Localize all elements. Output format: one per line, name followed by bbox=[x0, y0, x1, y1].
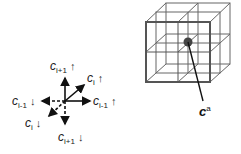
label-diag-down: ci↓ bbox=[25, 117, 41, 132]
label-ca: ca bbox=[199, 104, 211, 119]
label-diag-up: ci↑ bbox=[87, 72, 103, 87]
label-left: ci-1↓ bbox=[12, 95, 35, 110]
label-up: ci+1↑ bbox=[50, 60, 75, 75]
label-down: ci+1↓ bbox=[58, 131, 83, 146]
axes-diagram bbox=[42, 78, 90, 124]
label-right: ci-1↑ bbox=[93, 95, 116, 110]
